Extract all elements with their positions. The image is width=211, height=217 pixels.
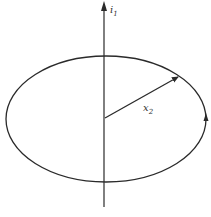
radius-label: x2: [143, 102, 154, 116]
axis-arrowhead-icon: [101, 1, 107, 11]
ellipse-orbit: [6, 56, 206, 182]
axis-label: i1: [110, 4, 118, 18]
direction-arrow-icon: [204, 113, 209, 121]
diagram-canvas: i1 x2: [0, 0, 211, 217]
radius-vector: [105, 77, 178, 118]
